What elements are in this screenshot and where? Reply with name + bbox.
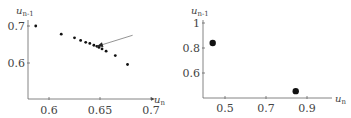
- x-tick-label: 0.7: [257, 102, 275, 115]
- chart-panel-2: 0.50.70.90.60.81un-1un: [183, 5, 347, 115]
- y-axis-label: un-1: [16, 5, 34, 18]
- x-tick-label: 0.5: [216, 102, 234, 115]
- y-tick-label: 0.6: [8, 57, 26, 70]
- y-tick-label: 0.8: [183, 42, 201, 55]
- data-point: [105, 50, 108, 53]
- data-point: [210, 40, 216, 46]
- x-tick-label: 0.7: [142, 104, 160, 117]
- x-tick-label: 0.6: [40, 104, 58, 117]
- chart-panel-1: 0.60.650.70.60.7un-1un: [8, 5, 166, 117]
- data-point: [73, 36, 76, 39]
- data-point: [60, 33, 63, 36]
- data-point: [34, 25, 37, 28]
- x-tick-label: 0.9: [298, 102, 316, 115]
- y-tick-label: 0.6: [183, 67, 201, 80]
- y-tick-label: 0.7: [8, 20, 26, 33]
- data-point: [88, 42, 91, 45]
- data-point: [114, 54, 117, 57]
- chart-canvas: 0.60.650.70.60.7un-1un0.50.70.90.60.81un…: [0, 0, 351, 118]
- data-point: [84, 41, 87, 44]
- data-point: [126, 63, 129, 66]
- arrowhead-icon: [97, 42, 103, 47]
- y-tick-label: 1: [193, 17, 200, 30]
- data-point: [79, 39, 82, 42]
- x-axis-label: un: [335, 93, 346, 106]
- x-tick-label: 0.65: [88, 104, 113, 117]
- data-point: [293, 88, 299, 94]
- data-point: [101, 48, 104, 51]
- data-point: [92, 44, 95, 47]
